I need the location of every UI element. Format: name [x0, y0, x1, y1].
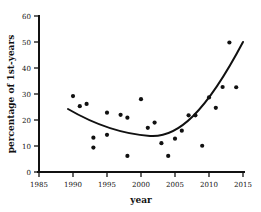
data-point	[139, 97, 143, 101]
data-point	[227, 40, 231, 44]
data-point	[78, 104, 82, 108]
data-point	[91, 136, 95, 140]
chart-container: 60 50 40 30 20 10 0 1985 1990 1995 2000 …	[0, 0, 261, 212]
data-point	[119, 113, 123, 117]
x-tick-label: 1985	[30, 181, 48, 189]
data-point	[166, 154, 170, 158]
y-tick-label: 30	[22, 91, 31, 99]
data-point	[105, 133, 109, 137]
data-point	[105, 111, 109, 115]
data-point	[187, 113, 191, 117]
data-point	[153, 121, 157, 125]
data-point	[214, 106, 218, 110]
data-point	[159, 141, 163, 145]
data-point	[146, 126, 150, 130]
x-axis-title: year	[129, 195, 152, 205]
data-point	[125, 116, 129, 120]
y-tick-label: 40	[22, 65, 31, 73]
data-point	[207, 95, 211, 99]
data-point	[85, 102, 89, 106]
y-tick-label: 50	[22, 39, 31, 47]
data-point	[234, 85, 238, 89]
scatter-plot: 60 50 40 30 20 10 0 1985 1990 1995 2000 …	[0, 0, 261, 212]
x-tick-label: 2000	[132, 181, 150, 189]
y-tick-label: 10	[22, 143, 31, 151]
data-point	[180, 129, 184, 133]
data-point	[125, 154, 129, 158]
y-tick-label: 60	[22, 13, 31, 21]
x-tick-label: 2005	[166, 181, 184, 189]
x-tick-label: 2010	[200, 181, 218, 189]
data-point	[71, 94, 75, 98]
data-point	[91, 145, 95, 149]
y-tick-label: 0	[27, 169, 31, 177]
data-point	[221, 85, 225, 89]
data-point	[173, 137, 177, 141]
y-axis-title: percentage of 1st-years	[6, 35, 16, 153]
data-point	[200, 144, 204, 148]
x-tick-label: 2015	[234, 181, 252, 189]
y-tick-label: 20	[22, 117, 31, 125]
x-tick-label: 1995	[98, 181, 116, 189]
x-tick-label: 1990	[64, 181, 82, 189]
data-point	[193, 113, 197, 117]
